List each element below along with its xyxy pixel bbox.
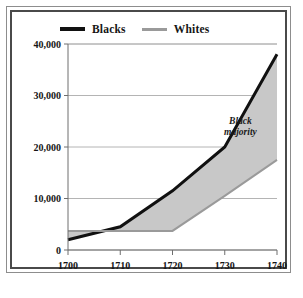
x-axis-tick-labels: 17001710172017301740 — [58, 260, 287, 271]
chart-plot-area: 010,00020,00030,00040,000 17001710172017… — [0, 0, 303, 298]
x-tick-label-1720: 1720 — [163, 260, 183, 271]
y-tick-label-0: 0 — [56, 245, 61, 256]
x-tick-label-1740: 1740 — [267, 260, 287, 271]
line-chart-svg: 010,00020,00030,00040,000 17001710172017… — [0, 0, 303, 298]
annotation-line-1: Black — [228, 116, 252, 126]
y-tick-label-20000: 20,000 — [34, 142, 62, 153]
x-tick-label-1700: 1700 — [58, 260, 78, 271]
x-tick-label-1730: 1730 — [215, 260, 235, 271]
y-tick-label-30000: 30,000 — [34, 90, 62, 101]
y-tick-label-40000: 40,000 — [34, 39, 62, 50]
annotation-line-2: majority — [224, 127, 258, 137]
y-axis-tick-labels: 010,00020,00030,00040,000 — [34, 39, 62, 256]
y-tick-label-10000: 10,000 — [34, 193, 62, 204]
x-tick-label-1710: 1710 — [110, 260, 130, 271]
figure-root: Blacks Whites 010,00020,00030,00040,000 … — [0, 0, 303, 298]
